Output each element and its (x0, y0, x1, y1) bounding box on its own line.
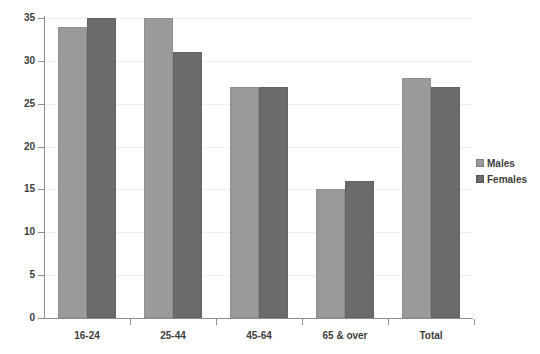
y-tick-label: 10 (9, 227, 35, 237)
plot-area (44, 18, 472, 318)
bar-females-1 (173, 52, 202, 318)
y-tick-mark (38, 104, 44, 105)
bar-females-3 (345, 181, 374, 318)
y-tick-label: 0 (9, 313, 35, 323)
legend-label-females: Females (487, 174, 527, 185)
legend-swatch-females-icon (476, 175, 484, 183)
legend-swatch-males-icon (476, 159, 484, 167)
y-tick-mark (38, 232, 44, 233)
x-tick-label: Total (388, 330, 474, 342)
x-tick-mark (302, 319, 303, 325)
y-tick-mark (38, 189, 44, 190)
y-tick-mark (38, 275, 44, 276)
y-tick-label: 15 (9, 184, 35, 194)
bar-females-2 (259, 87, 288, 318)
x-tick-label: 65 & over (302, 330, 388, 342)
bar-chart: 05101520253035 16-2425-4445-6465 & overT… (0, 0, 540, 354)
x-tick-label: 45-64 (216, 330, 302, 342)
bar-males-4 (402, 78, 431, 318)
y-axis-line (44, 16, 45, 319)
legend-item-females[interactable]: Females (476, 172, 527, 186)
x-tick-mark (130, 319, 131, 325)
y-tick-label: 30 (9, 56, 35, 66)
bar-females-4 (431, 87, 460, 318)
y-tick-label: 35 (9, 13, 35, 23)
bar-males-2 (230, 87, 259, 318)
y-tick-label: 20 (9, 142, 35, 152)
bar-males-3 (316, 189, 345, 318)
bar-females-0 (87, 18, 116, 318)
y-tick-label: 25 (9, 99, 35, 109)
y-tick-mark (38, 147, 44, 148)
x-tick-label: 25-44 (130, 330, 216, 342)
x-tick-mark (216, 319, 217, 325)
y-tick-mark (38, 61, 44, 62)
x-tick-label: 16-24 (44, 330, 130, 342)
bar-males-0 (58, 27, 87, 318)
legend-label-males: Males (487, 158, 515, 169)
bar-males-1 (144, 18, 173, 318)
x-tick-mark (388, 319, 389, 325)
x-axis-line (44, 318, 473, 319)
x-tick-mark (474, 319, 475, 325)
chart-legend: Males Females (476, 156, 527, 188)
legend-item-males[interactable]: Males (476, 156, 527, 170)
y-tick-label: 5 (9, 270, 35, 280)
y-tick-mark (38, 18, 44, 19)
y-tick-mark (38, 318, 44, 319)
